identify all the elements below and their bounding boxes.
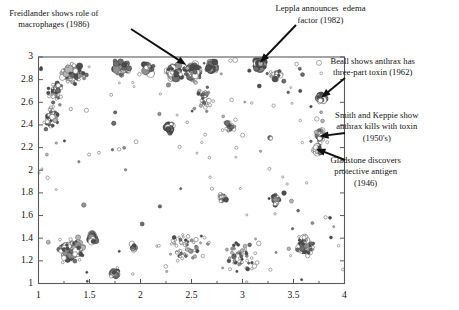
x-axis-tick-label: 3.5 bbox=[277, 289, 311, 300]
data-point bbox=[86, 271, 88, 273]
arrow-shaft-leppla bbox=[265, 25, 296, 57]
data-point bbox=[207, 98, 212, 103]
data-point bbox=[134, 140, 138, 144]
data-point bbox=[310, 140, 313, 143]
data-point bbox=[203, 102, 206, 105]
data-point bbox=[252, 264, 256, 268]
data-point bbox=[273, 202, 276, 205]
data-point bbox=[286, 183, 288, 185]
data-point bbox=[126, 66, 131, 71]
data-point bbox=[230, 98, 234, 102]
data-point bbox=[248, 262, 250, 264]
data-point bbox=[180, 188, 182, 190]
data-point bbox=[63, 140, 65, 142]
data-point bbox=[110, 93, 113, 96]
data-point bbox=[222, 115, 225, 118]
data-point bbox=[208, 241, 210, 243]
data-point bbox=[246, 259, 249, 262]
data-point bbox=[122, 63, 126, 67]
y-axis-tick-label: 2.2 bbox=[4, 141, 33, 152]
data-point bbox=[291, 102, 293, 104]
data-point bbox=[62, 256, 67, 261]
data-point bbox=[55, 142, 57, 144]
data-point bbox=[171, 68, 174, 71]
data-point bbox=[310, 105, 312, 107]
data-point bbox=[311, 222, 314, 225]
data-point bbox=[233, 58, 238, 63]
data-point bbox=[205, 110, 208, 113]
data-point bbox=[282, 79, 286, 83]
data-point bbox=[240, 249, 244, 253]
data-point bbox=[305, 182, 308, 185]
data-point bbox=[180, 252, 183, 255]
data-point bbox=[208, 156, 211, 159]
data-point bbox=[314, 130, 318, 134]
data-point bbox=[206, 65, 212, 71]
data-point bbox=[47, 91, 50, 94]
data-point bbox=[241, 133, 245, 137]
x-axis-tick-label: 1 bbox=[22, 289, 56, 300]
data-point bbox=[298, 67, 301, 70]
annotation-arrow-layer bbox=[131, 25, 345, 160]
data-point bbox=[88, 66, 90, 68]
data-point bbox=[172, 235, 176, 239]
data-point bbox=[228, 268, 231, 271]
data-point bbox=[195, 82, 197, 84]
data-point bbox=[204, 133, 207, 136]
data-point bbox=[299, 119, 301, 121]
data-point bbox=[282, 191, 287, 196]
data-point bbox=[273, 198, 277, 202]
y-axis-tick-label: 2.8 bbox=[4, 73, 33, 84]
y-axis-tick-label: 1.2 bbox=[4, 254, 33, 265]
data-point bbox=[268, 197, 270, 199]
data-point bbox=[70, 73, 74, 77]
data-point bbox=[243, 244, 247, 248]
data-point bbox=[222, 267, 224, 269]
data-point bbox=[233, 125, 236, 128]
data-point bbox=[228, 257, 231, 260]
data-point bbox=[212, 59, 218, 65]
data-point bbox=[174, 71, 180, 77]
data-point bbox=[59, 95, 62, 98]
data-point-layer bbox=[38, 58, 344, 284]
data-point bbox=[51, 93, 53, 95]
data-point bbox=[255, 261, 259, 265]
data-point bbox=[189, 73, 191, 75]
data-point bbox=[259, 150, 261, 152]
data-point bbox=[193, 70, 197, 74]
data-point bbox=[209, 176, 212, 179]
data-point bbox=[229, 59, 232, 62]
data-point bbox=[191, 68, 194, 71]
data-point bbox=[240, 256, 243, 259]
data-point bbox=[296, 248, 300, 252]
x-axis-tick-label: 2 bbox=[124, 289, 158, 300]
y-axis-tick-label: 3 bbox=[4, 50, 33, 61]
data-point bbox=[50, 106, 53, 109]
data-point bbox=[111, 148, 113, 150]
data-point bbox=[291, 228, 293, 230]
data-point bbox=[116, 267, 118, 269]
x-axis-tick-label: 4 bbox=[328, 289, 362, 300]
data-point bbox=[242, 253, 244, 255]
data-point bbox=[251, 102, 254, 105]
data-point bbox=[85, 73, 89, 77]
data-point bbox=[114, 111, 117, 114]
data-point bbox=[73, 68, 78, 73]
data-point bbox=[76, 235, 81, 240]
data-point bbox=[98, 151, 101, 154]
data-point bbox=[48, 95, 51, 98]
data-point bbox=[337, 244, 340, 247]
data-point bbox=[81, 254, 84, 257]
data-point bbox=[176, 114, 178, 116]
data-point bbox=[295, 62, 299, 66]
data-point bbox=[333, 226, 335, 228]
data-point bbox=[235, 156, 237, 158]
data-point bbox=[266, 72, 269, 75]
data-point bbox=[78, 161, 80, 163]
data-point bbox=[199, 104, 202, 107]
data-point bbox=[320, 111, 323, 114]
data-point bbox=[48, 108, 51, 111]
data-point bbox=[59, 238, 62, 241]
y-axis-tick-label: 2.4 bbox=[4, 118, 33, 129]
data-point bbox=[189, 250, 191, 252]
